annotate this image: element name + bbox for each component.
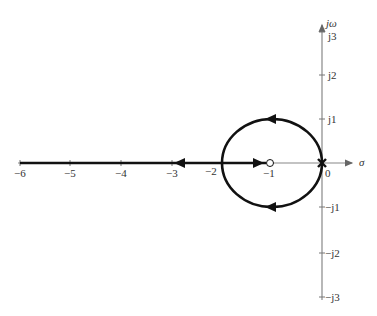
zero-marker-icon xyxy=(267,160,274,167)
tick-label-neg4: −4 xyxy=(115,167,127,179)
arrow-top-icon xyxy=(265,114,276,124)
arrow-bottom-icon xyxy=(265,202,276,212)
root-locus-plot: −6 −5 −4 −3 −2 −1 0 σ jω j3 j2 j1 −j1 −j… xyxy=(0,0,377,316)
sigma-label: σ xyxy=(359,156,365,168)
tick-label-neg2: −2 xyxy=(205,165,217,177)
tick-label-neg-j3: −j3 xyxy=(325,291,340,303)
tick-label-j3: j3 xyxy=(327,30,337,42)
tick-label-neg5: −5 xyxy=(64,167,76,179)
tick-label-j1: j1 xyxy=(327,113,337,125)
tick-label-neg-j1: −j1 xyxy=(325,201,340,213)
tick-label-neg3: −3 xyxy=(166,167,178,179)
tick-label-zero: 0 xyxy=(325,167,331,179)
tick-label-neg-j2: −j2 xyxy=(325,247,340,259)
tick-label-neg1: −1 xyxy=(263,167,275,179)
root-locus-diagram: −6 −5 −4 −3 −2 −1 0 σ jω j3 j2 j1 −j1 −j… xyxy=(0,0,377,316)
j-omega-label: jω xyxy=(324,17,337,29)
tick-label-j2: j2 xyxy=(327,69,337,81)
tick-label-neg6: −6 xyxy=(14,167,26,179)
